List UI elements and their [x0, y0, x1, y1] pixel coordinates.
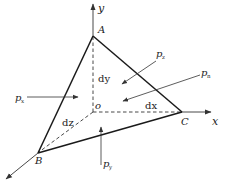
axes — [6, 4, 211, 179]
z-axis — [6, 153, 38, 179]
pz-label-sub: z — [162, 54, 165, 60]
vertex-a-label: A — [97, 24, 105, 35]
edge-ab — [38, 36, 93, 153]
vertex-b-label: B — [34, 155, 42, 166]
pn-label: p n — [201, 67, 211, 79]
z-axis-label: z — [0, 179, 7, 183]
edge-bc — [38, 112, 182, 153]
py-label: p y — [103, 158, 113, 171]
px-label: p x — [15, 92, 25, 104]
dy-label: dy — [98, 73, 110, 84]
vertex-c-label: C — [181, 116, 189, 127]
px-label-sub: x — [21, 98, 25, 104]
x-axis-label: x — [212, 115, 219, 128]
y-axis-label: y — [97, 2, 105, 15]
origin-label: o — [95, 100, 101, 111]
tetrahedron-diagram: y x z o A B C dy dx dz p x p z p n p y — [0, 0, 225, 183]
pz-label: p z — [156, 48, 165, 60]
dx-label: dx — [145, 100, 157, 111]
pn-arrow — [123, 75, 200, 101]
pn-label-sub: n — [207, 73, 211, 79]
dz-label: dz — [62, 117, 74, 128]
py-label-sub: y — [108, 164, 113, 171]
